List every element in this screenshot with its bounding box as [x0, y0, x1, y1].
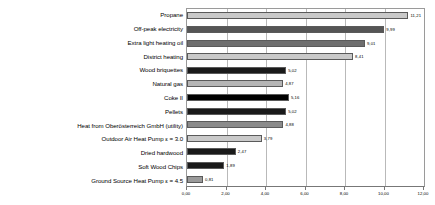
bar-row: 5,16 [187, 91, 424, 105]
bar-value-label: 2,47 [238, 149, 247, 154]
bar [187, 135, 262, 142]
bar-row: 9,01 [187, 36, 424, 50]
bar-row: 3,79 [187, 131, 424, 145]
bar-row: 11,21 [187, 9, 424, 23]
bar-row: 9,99 [187, 23, 424, 37]
bar [187, 40, 365, 47]
bar [187, 26, 384, 33]
x-axis: 0,002,004,006,008,0010,0012,00 [186, 187, 425, 201]
bar [187, 162, 224, 169]
bar [187, 121, 283, 128]
category-label: Soft Wood Chips [138, 163, 183, 170]
bar-value-label: 0,81 [205, 177, 214, 182]
category-label: Outdoor Air Heat Pump ε = 3.0 [102, 135, 183, 142]
bar-value-label: 5,02 [288, 109, 297, 114]
x-tick-mark [305, 187, 306, 190]
bar-value-label: 11,21 [410, 13, 421, 18]
bar-row: 8,41 [187, 50, 424, 64]
x-tick-mark [344, 187, 345, 190]
bar [187, 67, 286, 74]
x-tick-label: 10,00 [378, 191, 389, 196]
x-tick-label: 4,00 [261, 191, 269, 196]
category-row: Pellets [0, 104, 186, 118]
category-row: Propane [0, 8, 186, 22]
bar [187, 53, 353, 60]
x-tick-label: 12,00 [418, 191, 429, 196]
x-tick-mark [226, 187, 227, 190]
bar [187, 12, 408, 19]
category-label: Extra light heating oil [128, 39, 183, 46]
category-label: Propane [160, 11, 183, 18]
bar-row: 4,88 [187, 118, 424, 132]
bar-series: 11,21 9,99 9,01 8,41 5,02 4,87 5,16 5,02… [187, 9, 424, 186]
category-row: Off-peak electricity [0, 22, 186, 36]
category-label: Off-peak electricity [134, 25, 183, 32]
bar-row: 1,89 [187, 159, 424, 173]
category-row: Extra light heating oil [0, 36, 186, 50]
plot-area: 11,21 9,99 9,01 8,41 5,02 4,87 5,16 5,02… [186, 8, 425, 187]
category-label: Dried hardwood [141, 149, 183, 156]
bar [187, 108, 286, 115]
bar-chart: Propane Off-peak electricity Extra light… [0, 0, 435, 205]
x-tick-label: 2,00 [221, 191, 229, 196]
category-axis: Propane Off-peak electricity Extra light… [0, 8, 186, 187]
x-tick-label: 0,00 [182, 191, 190, 196]
category-row: Coke II [0, 91, 186, 105]
bar-row: 2,47 [187, 145, 424, 159]
bar-value-label: 9,99 [386, 27, 395, 32]
category-row: Natural gas [0, 77, 186, 91]
category-row: Outdoor Air Heat Pump ε = 3.0 [0, 132, 186, 146]
bar-row: 5,02 [187, 104, 424, 118]
bar-value-label: 9,01 [367, 41, 376, 46]
bar [187, 176, 203, 183]
bar [187, 94, 289, 101]
bar-value-label: 3,79 [264, 136, 273, 141]
category-row: Wood briquettes [0, 63, 186, 77]
category-row: Heat from Oberösterreich GmbH (utility) [0, 118, 186, 132]
x-tick-mark [186, 187, 187, 190]
category-label: Ground Source Heat Pump ε = 4.5 [91, 177, 183, 184]
bar-value-label: 1,89 [226, 163, 235, 168]
x-tick-mark [384, 187, 385, 190]
bar [187, 148, 236, 155]
x-tick-mark [265, 187, 266, 190]
category-label: Heat from Oberösterreich GmbH (utility) [77, 122, 183, 129]
category-label: District heating [143, 53, 183, 60]
bar-row: 5,02 [187, 63, 424, 77]
x-tick-mark [423, 187, 424, 190]
bar-row: 4,87 [187, 77, 424, 91]
bar-value-label: 4,87 [285, 81, 294, 86]
x-tick-label: 6,00 [300, 191, 308, 196]
category-label: Natural gas [152, 80, 183, 87]
category-row: Soft Wood Chips [0, 159, 186, 173]
category-row: District heating [0, 49, 186, 63]
bar-value-label: 4,88 [285, 122, 294, 127]
bar-row: 0,81 [187, 172, 424, 186]
bar-value-label: 5,02 [288, 68, 297, 73]
bar-value-label: 5,16 [291, 95, 300, 100]
x-tick-label: 8,00 [340, 191, 348, 196]
bar [187, 80, 283, 87]
category-row: Ground Source Heat Pump ε = 4.5 [0, 173, 186, 187]
category-label: Pellets [165, 108, 183, 115]
bar-value-label: 8,41 [355, 54, 364, 59]
category-label: Coke II [164, 94, 183, 101]
category-label: Wood briquettes [139, 66, 183, 73]
category-row: Dried hardwood [0, 146, 186, 160]
